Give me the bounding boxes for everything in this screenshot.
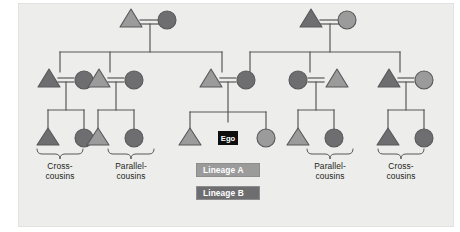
symbol-g3-ego-brother bbox=[179, 128, 201, 145]
figure-canvas: Ego Cross- cousins Parallel- cousins Par… bbox=[0, 0, 460, 232]
cousin-label-line1: Cross- bbox=[30, 161, 90, 171]
symbol-g3-ego-sister bbox=[257, 129, 275, 147]
symbol-g2-4-male bbox=[326, 69, 348, 87]
brace-cross-left bbox=[37, 149, 83, 159]
symbol-g3-parallel-left-female bbox=[125, 129, 143, 147]
brace-cross-right bbox=[378, 149, 424, 159]
cousin-label-line2: cousins bbox=[30, 171, 90, 181]
symbol-g1-left-female bbox=[158, 11, 176, 29]
symbol-g1-right-male bbox=[300, 9, 322, 27]
symbol-g3-cross-left-male bbox=[37, 128, 59, 145]
legend-item-lineage-a: Lineage A bbox=[196, 163, 260, 177]
cousin-label-parallel-left: Parallel- cousins bbox=[101, 161, 161, 181]
symbol-g2-4-female bbox=[289, 71, 307, 89]
symbol-g2-5-female bbox=[415, 71, 433, 89]
symbol-g3-parallel-right-female bbox=[325, 129, 343, 147]
symbol-g2-2-female bbox=[125, 71, 143, 89]
cousin-label-line2: cousins bbox=[101, 171, 161, 181]
symbol-g2-1-male bbox=[38, 69, 60, 87]
symbol-g2-3-mother bbox=[237, 71, 255, 89]
ego-symbol: Ego bbox=[218, 131, 238, 145]
symbol-g3-cross-right-male bbox=[377, 128, 399, 145]
ego-label: Ego bbox=[221, 134, 235, 143]
brace-parallel-left bbox=[108, 149, 154, 159]
symbol-g2-3-father bbox=[200, 69, 222, 87]
symbol-g2-5-male bbox=[378, 69, 400, 87]
cousin-label-line2: cousins bbox=[300, 171, 360, 181]
cousin-label-line1: Cross- bbox=[371, 161, 431, 171]
symbol-g3-cross-right-female bbox=[415, 129, 433, 147]
cousin-label-cross-right: Cross- cousins bbox=[371, 161, 431, 181]
cousin-label-line1: Parallel- bbox=[101, 161, 161, 171]
symbol-g1-left-male bbox=[120, 9, 142, 27]
legend-item-lineage-b: Lineage B bbox=[196, 186, 260, 200]
cousin-label-line1: Parallel- bbox=[300, 161, 360, 171]
symbol-g3-parallel-right-male bbox=[287, 128, 309, 145]
brace-parallel-right bbox=[307, 149, 353, 159]
legend-label-lineage-b: Lineage B bbox=[203, 188, 244, 198]
cousin-label-parallel-right: Parallel- cousins bbox=[300, 161, 360, 181]
cousin-label-cross-left: Cross- cousins bbox=[30, 161, 90, 181]
cousin-label-line2: cousins bbox=[371, 171, 431, 181]
symbol-g1-right-female bbox=[338, 11, 356, 29]
legend-label-lineage-a: Lineage A bbox=[203, 165, 244, 175]
